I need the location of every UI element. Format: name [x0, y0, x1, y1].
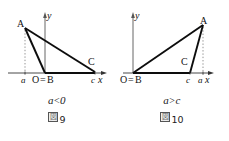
figure-kanji-glyph: 図 — [160, 112, 170, 122]
label-vertex-b: B — [47, 75, 54, 85]
label-origin-equals: = — [128, 75, 134, 85]
label-origin: O — [120, 75, 127, 85]
figure-number: 9 — [59, 114, 65, 125]
figure-page: A C y x a O = B c a<0 図9 — [0, 0, 229, 141]
figure-10-caption-number: 図10 — [115, 112, 229, 125]
label-tick-c: c — [91, 76, 95, 85]
triangle-abc-10 — [133, 25, 203, 73]
figure-kanji-glyph: 図 — [48, 112, 58, 122]
label-axis-y: y — [135, 11, 139, 21]
label-tick-c: c — [186, 76, 190, 85]
label-tick-a: a — [21, 76, 26, 85]
label-axis-x: x — [205, 75, 209, 85]
label-vertex-a: A — [200, 16, 207, 26]
label-tick-a: a — [198, 76, 203, 85]
figure-number: 10 — [171, 114, 183, 125]
label-vertex-b: B — [135, 75, 142, 85]
figure-9-caption-number: 図9 — [0, 112, 114, 125]
label-vertex-a: A — [17, 19, 24, 29]
triangle-abc-9 — [25, 28, 95, 73]
figure-10: A C y x O = B c a a>c 図10 — [115, 0, 229, 141]
label-vertex-c: C — [88, 57, 95, 67]
figure-9: A C y x a O = B c a<0 図9 — [0, 0, 114, 141]
figure-9-condition: a<0 — [0, 95, 114, 106]
label-origin-equals: = — [40, 75, 46, 85]
figure-9-graphic — [0, 0, 114, 95]
label-axis-x: x — [98, 75, 102, 85]
label-vertex-c: C — [181, 57, 188, 67]
label-axis-y: y — [47, 11, 51, 21]
label-origin: O — [32, 75, 39, 85]
condition-value: c — [175, 94, 180, 106]
figure-10-condition: a>c — [115, 95, 229, 106]
y-axis-10 — [131, 12, 135, 73]
condition-value: 0 — [60, 94, 66, 106]
